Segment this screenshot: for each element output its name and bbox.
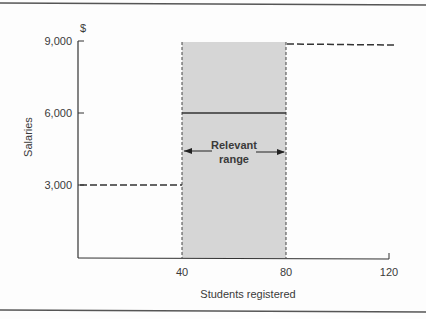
y-axis-title: Salaries bbox=[22, 117, 34, 157]
y-tick-label-3000: 3,000 bbox=[44, 179, 72, 191]
top-rule bbox=[0, 3, 426, 5]
y-tick-label-6000: 6,000 bbox=[44, 107, 72, 119]
y-tick-label-9000: 9,000 bbox=[44, 35, 72, 47]
bottom-rule bbox=[0, 310, 426, 312]
x-tick-label-40: 40 bbox=[176, 266, 188, 278]
range-label-line1: Relevant bbox=[211, 139, 257, 151]
x-tick-label-80: 80 bbox=[280, 266, 292, 278]
unit-label: $ bbox=[80, 22, 86, 34]
x-tick-label-120: 120 bbox=[380, 266, 398, 278]
x-axis-title: Students registered bbox=[200, 288, 295, 300]
step-cost-chart: $ 9,000 6,000 3,000 40 80 120 Students r… bbox=[0, 0, 426, 319]
cost-step-high bbox=[287, 44, 394, 45]
x-axis bbox=[78, 258, 389, 259]
chart-canvas: $ 9,000 6,000 3,000 40 80 120 Students r… bbox=[0, 0, 426, 319]
range-label-line2: range bbox=[219, 153, 249, 165]
